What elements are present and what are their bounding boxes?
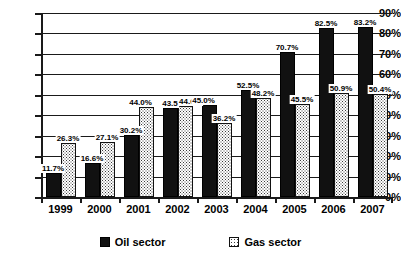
x-axis-label-2002: 2002: [158, 202, 197, 216]
bar-gas-2003[interactable]: 36.2%: [217, 123, 232, 197]
x-axis-label-2004: 2004: [236, 202, 275, 216]
legend-swatch-oil-icon: [100, 237, 110, 247]
bar-gas-2001[interactable]: 44.0%: [139, 107, 154, 197]
bar-value-label: 45.5%: [290, 95, 315, 104]
bar-gas-2000[interactable]: 27.1%: [100, 142, 115, 197]
bar-value-label: 27.1%: [95, 133, 120, 142]
x-axis-label-2003: 2003: [197, 202, 236, 216]
bar-group-2004: 52.5% 48.2%: [236, 13, 275, 197]
bar-oil-2001[interactable]: 30.2%: [124, 135, 139, 197]
bar-gas-2007[interactable]: 50.4%: [373, 94, 388, 197]
bar-group-2002: 43.5 44.6%: [158, 13, 197, 197]
bar-group-2007: 83.2% 50.4%: [353, 13, 392, 197]
bar-group-2000: 16.6% 27.1%: [80, 13, 119, 197]
bar-value-label: 16.6%: [80, 154, 105, 163]
bar-group-1999: 11.7% 26.3%: [41, 13, 80, 197]
x-axis-label-2006: 2006: [314, 202, 353, 216]
bar-chart: 90% 80% 70% 60% 50% 40% 30% 20% 10% 0%: [0, 0, 401, 261]
legend-label-oil: Oil sector: [115, 236, 166, 248]
x-axis-label-2001: 2001: [119, 202, 158, 216]
bar-gas-2002[interactable]: 44.6%: [178, 106, 193, 197]
chart-legend: Oil sector Gas sector: [0, 236, 401, 248]
bar-value-label: 83.2%: [353, 18, 378, 27]
bar-value-label: 82.5%: [314, 19, 339, 28]
bar-value-label: 52.5%: [236, 81, 261, 90]
bar-value-label: 45.0%: [191, 96, 216, 105]
bar-oil-2005[interactable]: 70.7%: [280, 52, 295, 197]
bar-oil-2004[interactable]: 52.5%: [241, 90, 256, 197]
bar-oil-2000[interactable]: 16.6%: [85, 163, 100, 197]
bar-gas-2006[interactable]: 50.9%: [334, 93, 349, 197]
bar-value-label: 44.0%: [128, 98, 153, 107]
bar-value-label: 70.7%: [275, 43, 300, 52]
bar-oil-2006[interactable]: 82.5%: [319, 28, 334, 197]
bar-group-2006: 82.5% 50.9%: [314, 13, 353, 197]
legend-item-oil[interactable]: Oil sector: [100, 236, 166, 248]
legend-swatch-gas-icon: [229, 237, 239, 247]
bar-oil-2002[interactable]: 43.5: [163, 108, 178, 197]
bar-value-label: 48.2%: [251, 89, 276, 98]
x-axis-label-2000: 2000: [80, 202, 119, 216]
legend-label-gas: Gas sector: [244, 236, 301, 248]
bar-group-2001: 30.2% 44.0%: [119, 13, 158, 197]
bar-oil-1999[interactable]: 11.7%: [46, 173, 61, 197]
bar-oil-2007[interactable]: 83.2%: [358, 27, 373, 197]
x-axis-label-2005: 2005: [275, 202, 314, 216]
bar-group-2005: 70.7% 45.5%: [275, 13, 314, 197]
bar-gas-2004[interactable]: 48.2%: [256, 98, 271, 197]
x-axis-label-1999: 1999: [41, 202, 80, 216]
bar-group-2003: 45.0% 36.2%: [197, 13, 236, 197]
x-axis-labels: 1999 2000 2001 2002 2003 2004 2005 2006 …: [41, 202, 392, 216]
bar-value-label: 11.7%: [41, 164, 65, 173]
legend-item-gas[interactable]: Gas sector: [229, 236, 301, 248]
bar-groups: 11.7% 26.3% 16.6% 27.1% 30.2% 44.0%: [41, 13, 392, 197]
bar-value-label: 50.4%: [368, 85, 393, 94]
bar-value-label: 26.3%: [56, 134, 81, 143]
x-axis-label-2007: 2007: [353, 202, 392, 216]
bar-gas-2005[interactable]: 45.5%: [295, 104, 310, 197]
bar-value-label: 43.5: [161, 99, 179, 108]
bar-value-label: 50.9%: [329, 84, 354, 93]
bar-value-label: 36.2%: [212, 114, 237, 123]
bar-value-label: 30.2%: [119, 126, 144, 135]
